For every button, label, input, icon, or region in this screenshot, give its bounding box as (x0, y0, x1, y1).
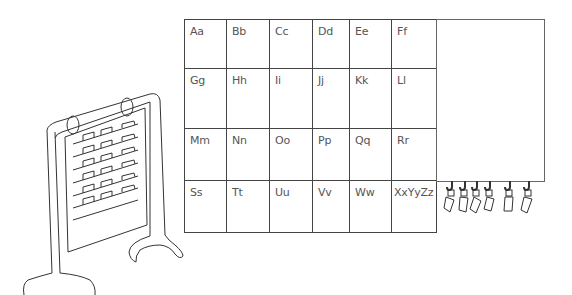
letter-cell: Ll (391, 68, 437, 129)
letter-cell: Kk (349, 68, 392, 129)
letter-label: Nn (232, 134, 247, 147)
letter-label: Jj (318, 74, 324, 87)
hook-icon (444, 181, 454, 212)
letter-cell: Mm (184, 128, 227, 181)
letter-cell: Nn (226, 128, 270, 181)
letter-label: Qq (355, 134, 370, 147)
letter-label: Aa (190, 25, 204, 38)
letter-cell: Cc (269, 19, 313, 69)
letter-label: Dd (318, 25, 333, 38)
hook-icon (459, 181, 468, 212)
letter-cell: Qq (349, 128, 392, 181)
letter-cell: Oo (269, 128, 313, 181)
letter-label: Ii (275, 74, 281, 87)
letter-label: Ee (355, 25, 368, 38)
letter-label: Ww (355, 186, 374, 199)
letter-label: Mm (190, 134, 210, 147)
letter-cell: Ii (269, 68, 313, 129)
letter-label: Ss (190, 186, 202, 199)
letter-cell: Ww (349, 180, 392, 233)
easel-illustration (0, 80, 200, 295)
letter-cell: Hh (226, 68, 270, 129)
letter-cell: Gg (184, 68, 227, 129)
letter-cell: Aa (184, 19, 227, 69)
letter-label: Tt (232, 186, 243, 199)
hook-icon (484, 181, 494, 211)
hooks-with-tags (440, 175, 540, 235)
letter-label: Kk (355, 74, 368, 87)
letter-label: XxYyZz (394, 186, 433, 199)
letter-cell: XxYyZz (391, 180, 437, 233)
letter-label: Rr (397, 134, 409, 147)
letter-label: Pp (318, 134, 331, 147)
letter-label: Cc (275, 25, 288, 38)
letter-label: Bb (232, 25, 246, 38)
letter-label: Ll (397, 74, 406, 87)
letter-cell: Uu (269, 180, 313, 233)
letter-cell: Bb (226, 19, 270, 69)
letter-cell: Ee (349, 19, 392, 69)
letter-label: Uu (275, 186, 290, 199)
letter-label: Ff (397, 25, 407, 38)
letter-cell: Vv (312, 180, 350, 233)
hook-icon (521, 181, 532, 213)
pocket-rows (73, 121, 138, 220)
letter-cell: Ff (391, 19, 437, 69)
letter-cell: Jj (312, 68, 350, 129)
blank-panel (436, 19, 545, 182)
letter-label: Gg (190, 74, 205, 87)
letter-cell: Pp (312, 128, 350, 181)
hook-icon (504, 181, 513, 211)
letter-label: Vv (318, 186, 332, 199)
letter-cell: Tt (226, 180, 270, 233)
letter-cell: Dd (312, 19, 350, 69)
hook-icon (470, 181, 481, 213)
letter-label: Hh (232, 74, 247, 87)
letter-cell: Ss (184, 180, 227, 233)
letter-label: Oo (275, 134, 290, 147)
letter-cell: Rr (391, 128, 437, 181)
